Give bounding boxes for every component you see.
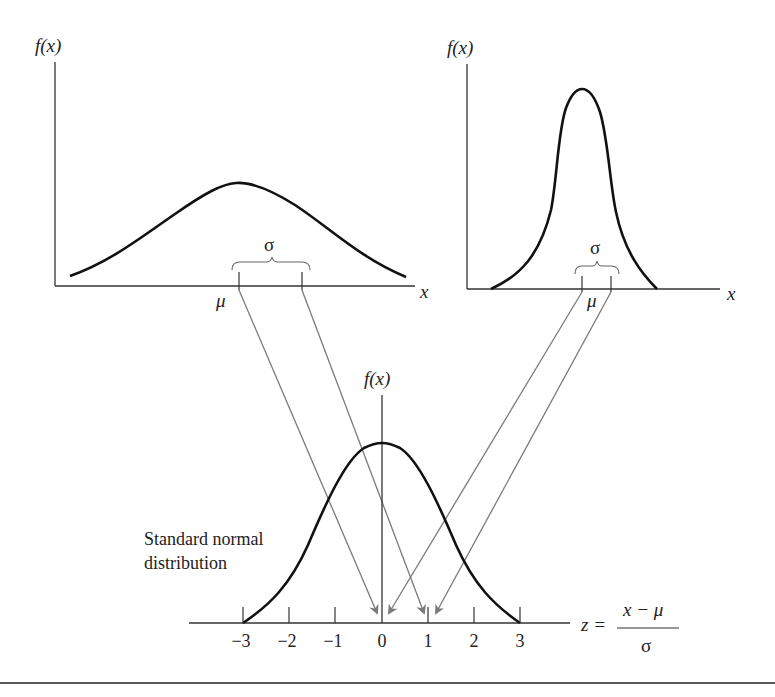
left-plot: f(x) x μ σ — [35, 35, 429, 311]
caption-line-2: distribution — [144, 553, 227, 573]
mapping-arrows — [239, 290, 611, 613]
arrow-left-mu-to-0 — [239, 290, 377, 613]
formula-lhs: z = — [580, 614, 606, 635]
left-sigma-label: σ — [264, 234, 274, 255]
left-ylabel: f(x) — [35, 35, 61, 57]
right-sigma-label: σ — [590, 237, 600, 258]
bottom-plot: −3 −2 −1 0 1 2 3 f(x) Standard normal di… — [144, 368, 679, 656]
arrow-right-sigma-to-1 — [436, 292, 611, 613]
left-bell-curve — [70, 183, 406, 277]
tick-label: 1 — [424, 631, 433, 651]
bottom-ylabel: f(x) — [364, 368, 390, 390]
right-sigma-brace — [575, 261, 619, 274]
bottom-tick-labels: −3 −2 −1 0 1 2 3 — [231, 631, 524, 651]
right-bell-curve — [491, 89, 657, 289]
tick-label: −2 — [277, 631, 296, 651]
tick-label: 2 — [470, 631, 479, 651]
right-plot: f(x) x μ σ — [447, 37, 736, 311]
left-xlabel: x — [419, 281, 429, 302]
formula-numerator: x − μ — [622, 599, 663, 620]
tick-label: −1 — [323, 631, 342, 651]
arrow-right-mu-to-0 — [389, 292, 582, 613]
left-mu-label: μ — [215, 290, 226, 311]
caption-line-1: Standard normal — [144, 529, 263, 549]
right-mu-label: μ — [586, 290, 597, 311]
right-xlabel: x — [726, 283, 736, 304]
formula-denominator: σ — [641, 635, 651, 656]
tick-label: 3 — [516, 631, 525, 651]
tick-label: 0 — [378, 631, 387, 651]
tick-label: −3 — [231, 631, 250, 651]
left-sigma-brace — [232, 257, 310, 270]
diagram-canvas: f(x) x μ σ f(x) x μ σ — [0, 0, 775, 697]
right-ylabel: f(x) — [447, 37, 473, 59]
